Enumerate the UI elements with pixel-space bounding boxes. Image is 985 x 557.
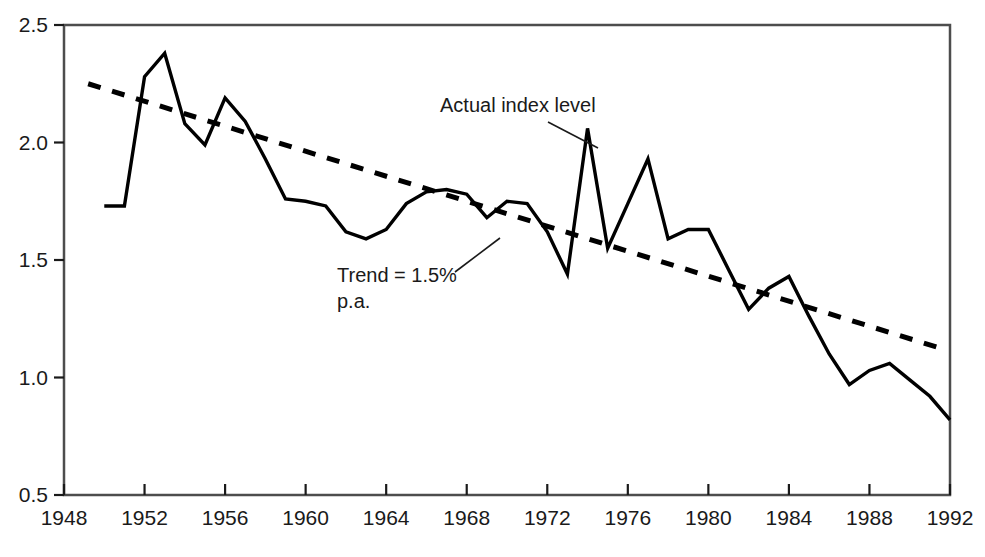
x-axis-tick-label: 1964 <box>363 506 410 529</box>
chart-background <box>0 0 985 557</box>
x-axis-tick-label: 1948 <box>41 506 88 529</box>
chart-page: 0.51.01.52.02.5 194819521956196019641968… <box>0 0 985 557</box>
x-axis-tick-label: 1988 <box>846 506 893 529</box>
x-axis-tick-label: 1984 <box>766 506 813 529</box>
x-axis-tick-label: 1968 <box>443 506 490 529</box>
annotation-trend-line1: Trend = 1.5% <box>337 264 457 286</box>
y-axis-tick-label: 0.5 <box>19 483 48 506</box>
x-axis-tick-label: 1980 <box>685 506 732 529</box>
y-axis-tick-label: 2.0 <box>19 131 48 154</box>
x-axis-tick-label: 1992 <box>927 506 974 529</box>
y-axis-tick-label: 1.5 <box>19 248 48 271</box>
x-axis-tick-label: 1952 <box>121 506 168 529</box>
y-axis-tick-label: 2.5 <box>19 13 48 36</box>
x-axis-tick-label: 1956 <box>202 506 249 529</box>
line-chart: 0.51.01.52.02.5 194819521956196019641968… <box>0 0 985 557</box>
annotation-actual-index-level: Actual index level <box>440 94 596 116</box>
x-axis-tick-label: 1960 <box>282 506 329 529</box>
annotation-trend-line2: p.a. <box>337 290 370 312</box>
x-axis-tick-label: 1976 <box>604 506 651 529</box>
x-axis-tick-label: 1972 <box>524 506 571 529</box>
y-axis-tick-label: 1.0 <box>19 366 48 389</box>
